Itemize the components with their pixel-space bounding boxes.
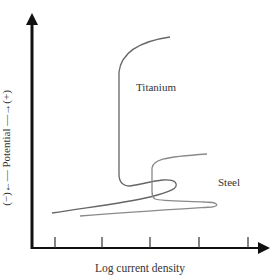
steel-curve — [80, 154, 217, 216]
titanium-label: Titanium — [136, 81, 176, 93]
steel-label: Steel — [218, 176, 240, 188]
y-axis-arrow-icon — [26, 13, 38, 25]
y-axis-label: (−)←— Potential —→(+) — [0, 90, 12, 206]
titanium-curve — [52, 37, 176, 213]
x-axis-arrow-icon — [258, 242, 270, 254]
x-axis-label: Log current density — [95, 262, 185, 274]
x-ticks — [55, 237, 248, 248]
chart-canvas — [0, 0, 280, 280]
